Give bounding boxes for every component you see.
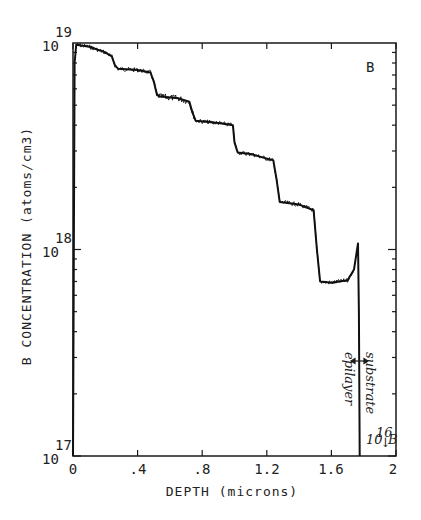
y-tick-17-base: 10 bbox=[42, 451, 59, 467]
x-tick-0: 0 bbox=[69, 461, 77, 477]
y-tick-19-exp: 19 bbox=[55, 24, 72, 40]
x-tick-1: .4 bbox=[130, 461, 147, 477]
y-tick-18-exp: 18 bbox=[55, 230, 72, 246]
noise-trace bbox=[76, 43, 353, 284]
y-tick-17-exp: 17 bbox=[55, 437, 72, 453]
x-tick-4: 1.6 bbox=[318, 461, 343, 477]
x-axis-title: DEPTH (microns) bbox=[166, 484, 298, 499]
y-tick-18-base: 10 bbox=[42, 244, 59, 260]
x-tick-5: 2 bbox=[389, 461, 397, 477]
panel-label: B bbox=[366, 59, 374, 75]
y-axis-title: B CONCENTRATION (atoms/cm3) bbox=[19, 127, 34, 365]
x-tick-3: 1.2 bbox=[254, 461, 279, 477]
chart: 0 .4 .8 1.2 1.6 2 DEPTH (microns) 10 19 … bbox=[0, 0, 421, 520]
y-tick-19-base: 10 bbox=[42, 38, 59, 54]
x-tick-labels: 0 .4 .8 1.2 1.6 2 bbox=[69, 461, 397, 477]
substrate-note-element: B bbox=[387, 432, 398, 447]
y-tick-labels: 10 19 10 18 10 17 bbox=[42, 24, 72, 467]
x-tick-2: .8 bbox=[194, 461, 211, 477]
